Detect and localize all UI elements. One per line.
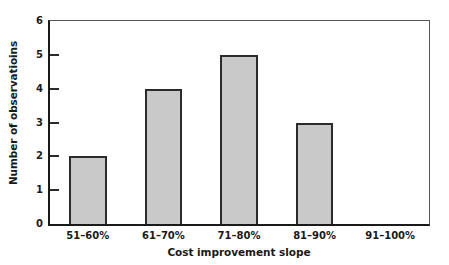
y-axis-tick-label: 0	[36, 219, 43, 229]
x-axis-tick-label: 81–90%	[293, 228, 336, 244]
y-axis-tick-mark	[50, 155, 59, 157]
y-axis-tick-mark	[50, 122, 59, 124]
x-axis-tick-label: 61–70%	[142, 228, 185, 244]
y-axis-tick-label: 6	[36, 16, 43, 26]
y-axis-tick-mark	[50, 88, 59, 90]
y-axis-tick-label: 2	[36, 151, 43, 161]
y-axis-tick-mark	[50, 189, 59, 191]
x-axis-tick-label: 91–100%	[365, 228, 415, 244]
bar	[220, 55, 258, 224]
y-axis-tick-label: 3	[36, 118, 43, 128]
x-axis-tick-label: 51–60%	[66, 228, 109, 244]
y-axis-title: Number of observatioins	[7, 41, 19, 185]
y-axis-tick-labels: 0123456	[26, 20, 46, 226]
y-axis-title-container: Number of observatioins	[0, 0, 26, 226]
x-axis-tick-label: 71–80%	[218, 228, 261, 244]
y-axis-tick-mark	[50, 54, 59, 56]
plot-area	[48, 20, 430, 226]
bar	[296, 123, 334, 225]
bar	[145, 89, 183, 224]
bar-chart-figure: Number of observatioins 0123456 51–60%61…	[0, 0, 449, 265]
bar	[69, 156, 107, 224]
plot-inner	[50, 21, 429, 224]
y-axis-tick-label: 1	[36, 185, 43, 195]
x-axis-tick-labels: 51–60%61–70%71–80%81–90%91–100%	[48, 228, 430, 246]
y-axis-tick-label: 5	[36, 50, 43, 60]
x-axis-title: Cost improvement slope	[48, 246, 430, 258]
y-axis-tick-label: 4	[36, 84, 43, 94]
